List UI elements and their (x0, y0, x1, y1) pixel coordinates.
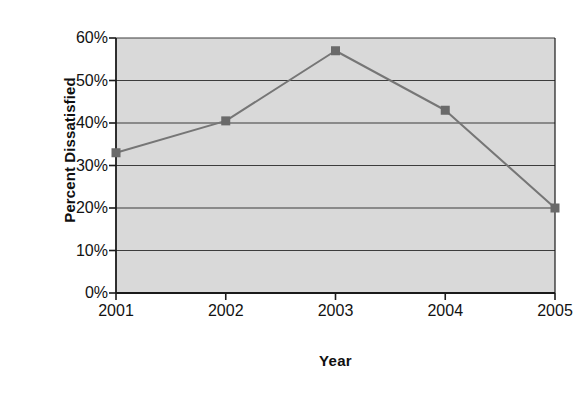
line-chart: 0%10%20%30%40%50%60% 2001200220032004200… (0, 0, 579, 396)
data-point-marker (551, 204, 560, 213)
y-axis-title: Percent Dissatisfied (46, 0, 92, 300)
data-point-marker (221, 116, 230, 125)
data-point-marker (331, 46, 340, 55)
y-axis-ticks (109, 38, 116, 293)
x-axis-tick-label: 2003 (318, 302, 354, 320)
x-axis-tick-label: 2004 (427, 302, 463, 320)
x-axis-ticks (116, 293, 555, 300)
x-axis-tick-labels: 20012002200320042005 (116, 302, 555, 332)
x-axis-tick-label: 2001 (98, 302, 134, 320)
data-point-marker (441, 106, 450, 115)
data-point-marker (112, 148, 121, 157)
x-axis-tick-label: 2002 (208, 302, 244, 320)
x-axis-tick-label: 2005 (537, 302, 573, 320)
x-axis-title: Year (116, 352, 555, 369)
